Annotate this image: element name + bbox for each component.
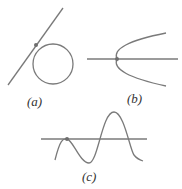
panel-a: (a) [8,8,73,109]
panel-b-label: (b) [127,91,142,106]
figure: (a) (b) (c) [0,0,182,189]
panel-c-label: (c) [82,169,96,184]
circle [33,44,73,84]
panel-a-label: (a) [27,94,42,109]
panel-c: (c) [41,112,147,184]
tangent-point [65,137,69,141]
tangent-point [34,43,38,47]
panel-b: (b) [87,33,178,106]
vertex-point [115,57,119,61]
